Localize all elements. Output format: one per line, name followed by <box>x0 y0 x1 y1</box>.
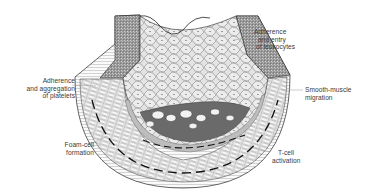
label-line: Adherence <box>254 28 295 36</box>
label-t-cell: T-cell activation <box>272 149 300 164</box>
label-line: formation <box>65 149 94 157</box>
artery-diagram: Adherence and entry of leukocytes Adhere… <box>0 0 375 194</box>
label-platelets: Adherence and aggregation of platelets <box>27 77 75 100</box>
label-line: and entry <box>254 36 295 44</box>
label-line: T-cell <box>272 149 300 157</box>
label-line: of platelets <box>27 92 75 100</box>
label-line: of leukocytes <box>254 43 295 51</box>
label-leukocytes: Adherence and entry of leukocytes <box>254 28 295 51</box>
label-line: Foam-cell <box>65 141 94 149</box>
label-line: and aggregation <box>27 85 75 93</box>
label-smooth-muscle: Smooth-muscle migration <box>305 86 351 101</box>
label-line: migration <box>305 94 351 102</box>
label-line: Adherence <box>27 77 75 85</box>
label-line: activation <box>272 157 300 165</box>
label-foam-cell: Foam-cell formation <box>65 141 94 156</box>
label-line: Smooth-muscle <box>305 86 351 94</box>
